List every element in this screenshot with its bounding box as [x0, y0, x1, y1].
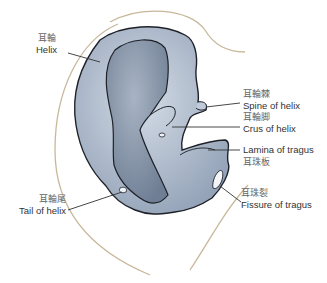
label-crus-of-helix-cn: 耳輪脚 [243, 111, 296, 123]
label-helix-en: Helix [36, 44, 57, 56]
label-fissure-of-tragus: 耳珠裂 Fissure of tragus [241, 187, 312, 211]
label-tail-of-helix-cn: 耳輪尾 [6, 193, 66, 205]
label-helix-cn: 耳輪 [36, 32, 57, 44]
label-crus-of-helix: 耳輪脚 Crus of helix [243, 111, 296, 135]
label-lamina-of-tragus-cn: 耳珠板 [243, 156, 314, 168]
label-fissure-of-tragus-en: Fissure of tragus [241, 199, 312, 211]
crus-notch [159, 133, 165, 137]
label-spine-of-helix-cn: 耳輪棘 [243, 88, 300, 100]
label-helix: 耳輪 Helix [36, 32, 57, 56]
label-lamina-of-tragus-en: Lamina of tragus [243, 144, 314, 156]
label-fissure-of-tragus-cn: 耳珠裂 [241, 187, 312, 199]
label-lamina-of-tragus: Lamina of tragus 耳珠板 [243, 144, 314, 168]
label-tail-of-helix: 耳輪尾 Tail of helix [6, 193, 66, 217]
label-spine-of-helix: 耳輪棘 Spine of helix [243, 88, 300, 112]
label-crus-of-helix-en: Crus of helix [243, 123, 296, 135]
label-tail-of-helix-en: Tail of helix [6, 205, 66, 217]
